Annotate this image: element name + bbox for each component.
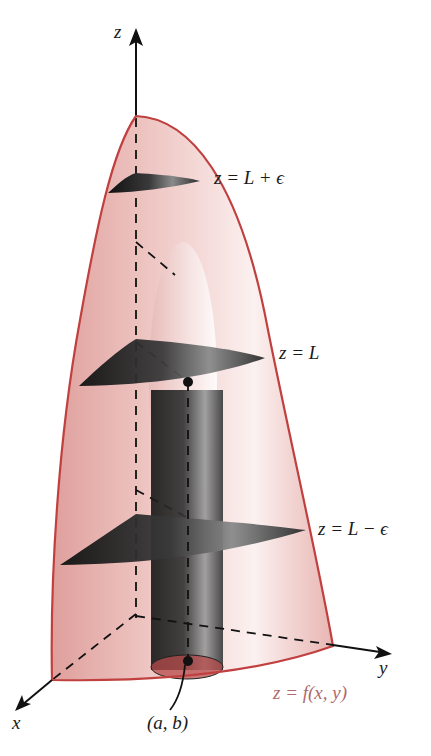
y-axis-label: y — [379, 658, 387, 677]
z-axis — [129, 28, 143, 117]
point-label: (a, b) — [147, 713, 188, 732]
limit-diagram — [0, 0, 431, 756]
plane-upper-label: z = L + ϵ — [214, 168, 284, 187]
z-axis-label: z — [114, 22, 121, 41]
point-ab — [183, 656, 193, 666]
point-on-plane — [183, 377, 193, 387]
plane-middle-label: z = L — [279, 343, 319, 362]
plane-lower-label: z = L − ϵ — [318, 519, 388, 538]
surface-label: z = f(x, y) — [273, 683, 347, 702]
x-axis-label: x — [12, 713, 20, 732]
